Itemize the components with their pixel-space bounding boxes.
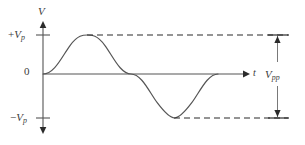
- sine-waveform: [43, 35, 218, 118]
- peak-to-peak-label: Vpp: [265, 69, 280, 82]
- negative-peak-symbol: V: [16, 111, 23, 123]
- dimension-arrow-down: [274, 110, 280, 117]
- time-axis-label: t: [253, 68, 256, 78]
- negative-peak-subscript: p: [23, 116, 27, 125]
- peak-to-peak-symbol: V: [265, 68, 272, 80]
- time-axis: [43, 71, 250, 78]
- peak-to-peak-subscript: pp: [272, 73, 280, 82]
- positive-peak-subscript: p: [21, 33, 25, 42]
- voltage-axis: [40, 21, 47, 134]
- negative-peak-label: −Vp: [10, 112, 27, 125]
- positive-peak-symbol: V: [14, 28, 21, 40]
- dimension-arrow-up: [274, 36, 280, 43]
- waveform-figure: V t +Vp 0 −Vp Vpp: [0, 0, 305, 145]
- origin-label: 0: [24, 66, 30, 77]
- positive-peak-label: +Vp: [8, 29, 25, 42]
- waveform-plot: [0, 0, 305, 145]
- voltage-axis-label: V: [38, 6, 45, 17]
